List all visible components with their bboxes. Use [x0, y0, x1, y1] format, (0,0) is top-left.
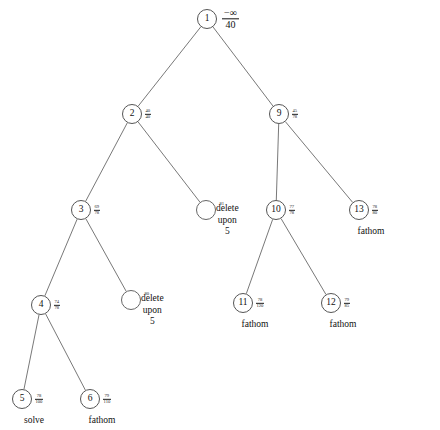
search-tree-figure: { "figure": { "type": "branch-and-bound-…: [0, 0, 440, 430]
tree-edge: [45, 219, 77, 296]
tree-edge: [138, 27, 201, 106]
annotation-line: delete: [216, 203, 239, 215]
tree-edge: [86, 219, 126, 292]
annotation-line: upon: [216, 215, 239, 227]
node-circle: 4: [31, 295, 51, 315]
node-status-fathom: fathom: [89, 415, 116, 426]
tree-node-12[interactable]: 12: [321, 293, 341, 313]
node-circle: [196, 200, 216, 220]
annotation-line: 5: [141, 316, 164, 328]
bound-denominator: 78: [289, 211, 295, 216]
tree-node-5[interactable]: 5: [12, 389, 32, 409]
bound-denominator: 40: [145, 115, 151, 120]
bound-denominator: 110: [103, 400, 111, 405]
node-bound-label: 4578: [292, 109, 298, 119]
bound-denominator: 78: [94, 211, 100, 216]
node-circle: 12: [321, 293, 341, 313]
tree-edge: [46, 314, 86, 390]
tree-node-empty[interactable]: [196, 200, 216, 220]
node-circle: 13: [349, 200, 369, 220]
node-bound-label: 4040: [145, 109, 151, 119]
node-circle: 1: [197, 9, 217, 29]
tree-edge: [138, 122, 200, 202]
tree-node-9[interactable]: 9: [269, 104, 289, 124]
tree-edge: [281, 219, 326, 295]
bound-denominator: 80: [372, 211, 378, 216]
tree-edge: [86, 123, 128, 201]
tree-node-1[interactable]: 1: [197, 9, 217, 29]
node-circle: 3: [71, 200, 91, 220]
delete-upon-annotation: deleteupon5: [141, 293, 164, 328]
node-circle: 9: [269, 104, 289, 124]
node-bound-label: 7478: [54, 300, 60, 310]
node-status-fathom: fathom: [242, 319, 269, 330]
tree-node-10[interactable]: 10: [266, 200, 286, 220]
tree-node-3[interactable]: 3: [71, 200, 91, 220]
node-bound-label: 7880: [372, 205, 378, 215]
bound-denominator: 120: [256, 304, 264, 309]
node-bound-label: 78120: [256, 298, 264, 308]
bound-denominator: 78: [292, 115, 298, 120]
node-circle: 5: [12, 389, 32, 409]
tree-node-empty[interactable]: [121, 290, 141, 310]
node-bound-label: 79110: [103, 394, 111, 404]
tree-edge: [246, 219, 272, 293]
node-bound-label: 7778: [289, 205, 295, 215]
tree-node-2[interactable]: 2: [122, 104, 142, 124]
tree-edge: [24, 315, 39, 389]
bound-denominator: 78: [54, 306, 60, 311]
node-circle: 2: [122, 104, 142, 124]
node-circle: 11: [233, 293, 253, 313]
tree-node-6[interactable]: 6: [80, 389, 100, 409]
node-circle: [121, 290, 141, 310]
node-bound-label: 7985: [344, 298, 350, 308]
node-circle: 6: [80, 389, 100, 409]
tree-node-13[interactable]: 13: [349, 200, 369, 220]
node-bound-label: 78100: [35, 394, 43, 404]
tree-edge: [285, 122, 352, 203]
tree-node-11[interactable]: 11: [233, 293, 253, 313]
node-status-fathom: fathom: [330, 319, 357, 330]
bound-denominator: 100: [35, 400, 43, 405]
annotation-line: delete: [141, 293, 164, 305]
node-bound-label: 6978: [94, 205, 100, 215]
bound-denominator: 40: [222, 20, 239, 31]
delete-upon-annotation: deleteupon5: [216, 203, 239, 238]
tree-node-4[interactable]: 4: [31, 295, 51, 315]
tree-edge: [276, 124, 278, 200]
node-bound-label: −∞40: [222, 7, 239, 30]
tree-edge: [213, 27, 273, 106]
bound-numerator: −∞: [222, 7, 239, 19]
annotation-line: upon: [141, 305, 164, 317]
annotation-line: 5: [216, 226, 239, 238]
node-circle: 10: [266, 200, 286, 220]
node-status-solve: solve: [24, 415, 44, 426]
node-status-fathom: fathom: [358, 226, 385, 237]
bound-denominator: 85: [344, 304, 350, 309]
